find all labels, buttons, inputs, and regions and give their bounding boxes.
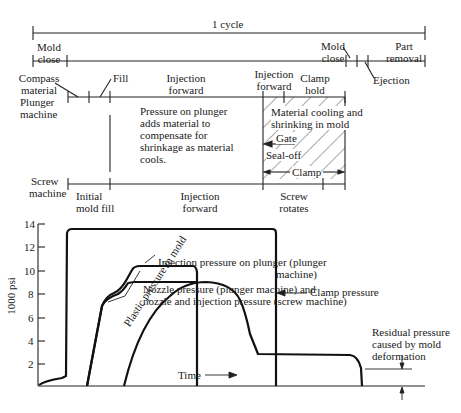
time-label: Time bbox=[178, 369, 201, 381]
clamp-pressure-label: Clamp pressure bbox=[310, 286, 379, 298]
gate-label: Gate bbox=[276, 132, 297, 144]
y-tick-6: 6 bbox=[28, 312, 34, 324]
injection-pressure-label: Injection pressure on plunger (plungerma… bbox=[158, 256, 327, 280]
clamp-label: Clamp bbox=[292, 166, 321, 178]
y-tick-4: 4 bbox=[28, 335, 34, 347]
compass-material-label: Compassmaterial bbox=[17, 72, 61, 96]
plunger-machine-label: Plungermachine bbox=[20, 96, 57, 120]
clamp-hold-label: Clamphold bbox=[298, 72, 332, 96]
y-tick-10: 10 bbox=[24, 265, 35, 277]
injection-forward-right-label: Injectionforward bbox=[252, 68, 296, 92]
injection-forward-plunger-label: Injectionforward bbox=[162, 72, 210, 96]
cooling-note: Material cooling andshrinking in mold bbox=[271, 106, 363, 130]
mold-close-left-label: Moldclose bbox=[32, 41, 66, 65]
pressure-note: Pressure on plungeradds material tocompe… bbox=[140, 105, 233, 165]
part-removal-label: Partremoval bbox=[382, 40, 426, 64]
cycle-label: 1 cycle bbox=[212, 18, 243, 30]
initial-mold-fill-label: Initialmold fill bbox=[76, 190, 114, 214]
mold-close-right-label: Moldclose bbox=[316, 40, 350, 64]
injection-forward-screw-label: Injectionforward bbox=[176, 190, 224, 214]
y-tick-14: 14 bbox=[24, 218, 35, 230]
y-tick-12: 12 bbox=[24, 241, 35, 253]
residual-pressure-label: Residual pressurecaused by molddeformati… bbox=[372, 326, 450, 362]
screw-machine-label: Screwmachine bbox=[29, 175, 66, 199]
y-tick-8: 8 bbox=[28, 288, 34, 300]
y-tick-2: 2 bbox=[28, 358, 34, 370]
ejection-label: Ejection bbox=[373, 74, 410, 86]
screw-rotates-label: Screwrotates bbox=[272, 190, 316, 214]
seal-off-label: Seal-off bbox=[266, 149, 301, 161]
y-axis-title: 1000 psi bbox=[5, 277, 17, 315]
fill-label: Fill bbox=[113, 72, 128, 84]
